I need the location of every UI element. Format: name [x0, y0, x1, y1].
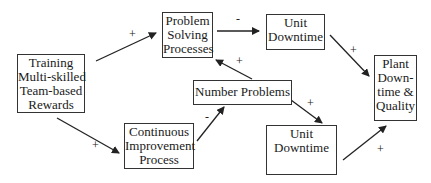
node-plant-downtime-quality: Plant Down- time & Quality [374, 55, 417, 121]
node-training-line-4: Rewards [18, 98, 84, 112]
node-continuous-improvement-line-3: Process [125, 153, 193, 167]
sign-number-problems-to-problem-solving: + [236, 55, 243, 67]
node-problem-solving: Problem Solving Processes [162, 12, 213, 58]
arrow-training-to-problem-solving [96, 33, 156, 61]
sign-training-to-problem-solving: + [129, 28, 136, 40]
sign-training-to-continuous-improvement: + [92, 139, 99, 151]
node-training: Training Multi-skilled Team-based Reward… [17, 54, 85, 113]
node-training-line-2: Multi-skilled [18, 70, 84, 84]
sign-continuous-improvement-to-number-problems: - [205, 111, 209, 123]
arrow-training-to-continuous-improvement [57, 118, 119, 153]
arrow-number-problems-to-problem-solving [216, 60, 252, 79]
node-continuous-improvement-line-1: Continuous [125, 125, 193, 139]
causal-loop-diagram: Training Multi-skilled Team-based Reward… [0, 0, 431, 183]
node-unit-downtime-bottom-line-1: Unit [267, 127, 336, 141]
sign-unit-downtime-top-to-plant: + [350, 44, 357, 56]
sign-number-problems-to-unit-downtime-bottom: + [307, 97, 314, 109]
node-unit-downtime-bottom: Unit Downtime [266, 125, 337, 175]
node-training-line-3: Team-based [18, 84, 84, 98]
node-continuous-improvement: Continuous Improvement Process [124, 123, 194, 169]
arrow-continuous-improvement-to-number-problems [197, 107, 224, 141]
sign-problem-solving-to-unit-downtime-top: - [236, 13, 240, 25]
node-problem-solving-line-1: Problem [163, 14, 212, 28]
node-unit-downtime-bottom-line-2: Downtime [267, 141, 336, 155]
node-plant-line-2: Down- [375, 71, 416, 85]
node-problem-solving-line-3: Processes [163, 42, 212, 56]
node-plant-line-1: Plant [375, 57, 416, 71]
node-unit-downtime-top-line-1: Unit [267, 16, 324, 30]
sign-unit-downtime-bottom-to-plant: + [377, 143, 384, 155]
node-number-problems: Number Problems [193, 80, 292, 105]
node-problem-solving-line-2: Solving [163, 28, 212, 42]
node-continuous-improvement-line-2: Improvement [125, 139, 193, 153]
node-unit-downtime-top-line-2: Downtime [267, 30, 324, 44]
node-plant-line-4: Quality [375, 99, 416, 113]
node-number-problems-line-1: Number Problems [194, 85, 291, 99]
node-training-line-1: Training [18, 56, 84, 70]
node-unit-downtime-top: Unit Downtime [266, 14, 325, 50]
node-plant-line-3: time & [375, 85, 416, 99]
